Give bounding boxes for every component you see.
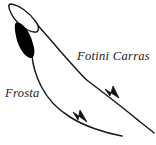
diagram-vector-layer [0, 0, 156, 145]
frosta-label: Frosta [5, 87, 40, 100]
fotini-carras-label: Fotini Carras [77, 50, 150, 63]
fotini-carras-track-line [34, 21, 154, 133]
diagram-canvas: Fotini Carras Frosta [0, 0, 156, 145]
